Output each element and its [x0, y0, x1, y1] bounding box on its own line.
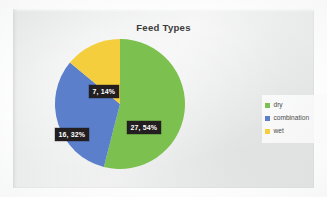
pie-chart	[54, 38, 186, 170]
data-label-dry: 27, 54%	[127, 121, 161, 134]
chart-title: Feed Types	[13, 22, 314, 33]
legend-swatch-dry	[265, 103, 270, 108]
legend-swatch-combination	[265, 116, 270, 121]
legend-item-combination: combination	[265, 112, 325, 125]
legend-item-wet: wet	[265, 125, 325, 138]
legend-label-combination: combination	[274, 115, 310, 122]
chart-panel: Feed Types 27, 54% 16, 32%	[13, 9, 314, 188]
chart-screenshot: Feed Types 27, 54% 16, 32%	[0, 0, 327, 197]
paper-edge-highlight-left	[13, 9, 17, 188]
data-label-combination: 16, 32%	[55, 128, 89, 141]
legend-label-wet: wet	[274, 128, 284, 135]
legend-item-dry: dry	[265, 99, 325, 112]
chart-legend: dry combination wet	[262, 95, 327, 143]
data-label-wet: 7, 14%	[89, 85, 119, 98]
legend-swatch-wet	[265, 129, 270, 134]
paper-edge-highlight-top	[13, 9, 314, 12]
pie-svg	[54, 38, 186, 170]
legend-label-dry: dry	[274, 102, 283, 109]
